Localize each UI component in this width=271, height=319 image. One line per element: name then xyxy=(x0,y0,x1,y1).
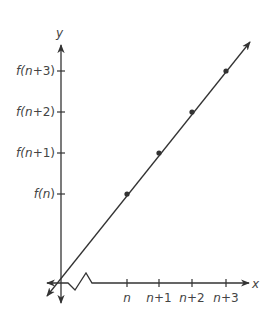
y-tick-label-f-n-plus-1: f(n+1) xyxy=(16,146,55,160)
y-tick-label-f-n-plus-2: f(n+2) xyxy=(16,105,55,119)
x-tick-label-n-plus-2: n+2 xyxy=(179,291,204,305)
point-n-plus-3 xyxy=(223,68,228,73)
x-tick-label-n-plus-3: n+3 xyxy=(213,291,238,305)
y-axis-label: y xyxy=(55,26,64,40)
point-n-plus-2 xyxy=(189,109,194,114)
x-tick-label-n: n xyxy=(123,291,131,305)
function-line xyxy=(47,42,250,296)
x-tick-label-n-plus-1: n+1 xyxy=(146,291,171,305)
x-axis xyxy=(47,273,249,290)
y-tick-label-f-n-plus-3: f(n+3) xyxy=(16,64,55,78)
linear-function-diagram: y x n n+1 n+2 n+3 f(n) f(n+1) f(n+2) f(n… xyxy=(0,0,271,319)
point-n xyxy=(124,191,129,196)
x-axis-label: x xyxy=(251,277,260,291)
y-tick-label-f-n: f(n) xyxy=(34,187,55,201)
point-n-plus-1 xyxy=(156,150,161,155)
